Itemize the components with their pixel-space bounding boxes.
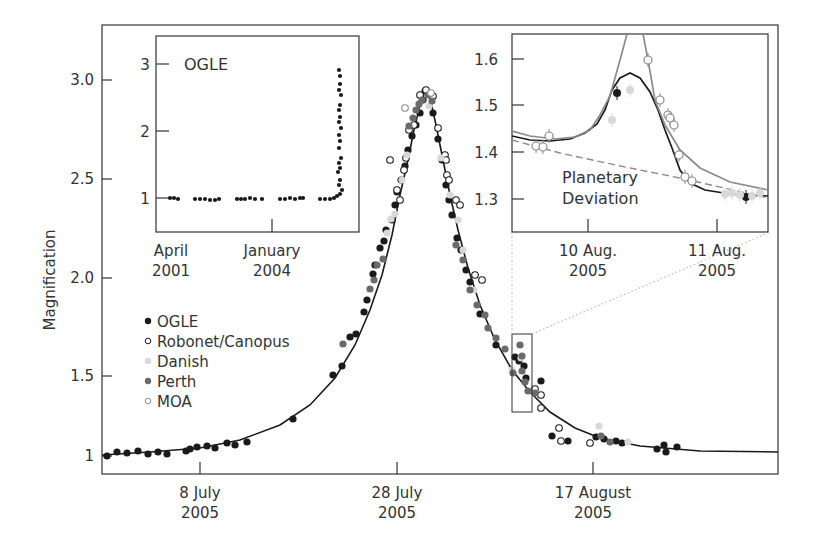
data-point-danish bbox=[403, 151, 410, 158]
ogle-point bbox=[283, 197, 287, 201]
ogle-point bbox=[301, 196, 305, 200]
data-point-ogle bbox=[466, 278, 473, 285]
x-tick-label: 28 July bbox=[372, 484, 423, 502]
ogle-point bbox=[176, 197, 180, 201]
inset-x-tick-label: 11 Aug. bbox=[688, 242, 746, 260]
data-point-ogle bbox=[338, 362, 345, 369]
inset-ogle-title: OGLE bbox=[184, 55, 228, 74]
data-point-perth bbox=[518, 367, 525, 374]
data-point-robonet-canopus bbox=[394, 187, 401, 194]
data-point-ogle bbox=[211, 444, 218, 451]
inset-point bbox=[756, 189, 764, 197]
ogle-point bbox=[243, 197, 247, 201]
data-point-ogle bbox=[618, 439, 625, 446]
data-point-danish bbox=[437, 154, 444, 161]
legend-marker bbox=[145, 318, 151, 324]
data-point-robonet-canopus bbox=[387, 157, 394, 164]
inset-x-tick-label: April bbox=[154, 242, 188, 260]
data-point-ogle bbox=[113, 448, 120, 455]
ogle-point bbox=[235, 197, 239, 201]
data-point-danish bbox=[595, 422, 602, 429]
x-tick-label: 17 August bbox=[555, 484, 631, 502]
data-point-moa bbox=[402, 105, 409, 112]
ogle-point bbox=[213, 198, 217, 202]
data-point-ogle bbox=[662, 448, 669, 455]
data-point-perth bbox=[484, 324, 491, 331]
data-point-ogle bbox=[163, 450, 170, 457]
legend-label: Danish bbox=[157, 353, 209, 371]
y-tick-label: 1 bbox=[84, 447, 94, 465]
inset-x-tick-label-year: 2001 bbox=[152, 262, 190, 280]
ogle-point bbox=[253, 197, 257, 201]
data-point-danish bbox=[391, 210, 398, 217]
data-point-perth bbox=[459, 256, 466, 263]
inset-point bbox=[736, 191, 744, 199]
legend-label: Robonet/Canopus bbox=[157, 333, 290, 351]
y-tick-label: 3.0 bbox=[70, 71, 94, 89]
data-point-perth bbox=[521, 378, 528, 385]
data-point-perth bbox=[409, 114, 416, 121]
data-point-ogle bbox=[103, 452, 110, 459]
data-point-perth bbox=[373, 261, 380, 268]
data-point-perth bbox=[597, 432, 604, 439]
data-point-perth bbox=[606, 438, 613, 445]
ogle-point bbox=[203, 197, 207, 201]
ogle-point bbox=[217, 197, 221, 201]
inset-point bbox=[670, 121, 678, 129]
data-point-danish bbox=[446, 191, 453, 198]
y-tick-label: 2.5 bbox=[70, 170, 94, 188]
data-point-ogle bbox=[289, 415, 296, 422]
inset-y-tick-label: 1.6 bbox=[474, 51, 498, 69]
inset-x-tick-label-year: 2004 bbox=[253, 262, 291, 280]
ogle-point bbox=[338, 139, 342, 143]
legend-marker bbox=[145, 378, 151, 384]
data-point-perth bbox=[418, 96, 425, 103]
data-point-ogle bbox=[144, 450, 151, 457]
data-point-perth bbox=[501, 345, 508, 352]
data-point-ogle bbox=[462, 266, 469, 273]
data-point-danish bbox=[624, 438, 631, 445]
y-tick-label: 1.5 bbox=[70, 367, 94, 385]
ogle-point bbox=[338, 192, 342, 196]
ogle-point bbox=[248, 196, 252, 200]
inset-point bbox=[608, 116, 616, 124]
ogle-point bbox=[339, 126, 343, 130]
data-point-robonet-canopus bbox=[397, 197, 404, 204]
data-point-ogle bbox=[537, 377, 544, 384]
ogle-point bbox=[337, 108, 341, 112]
inset-point bbox=[675, 151, 683, 159]
data-point-perth bbox=[509, 369, 516, 376]
data-point-robonet-canopus bbox=[457, 202, 464, 209]
inset-point bbox=[728, 189, 736, 197]
data-point-robonet-canopus bbox=[558, 438, 565, 445]
ogle-point bbox=[337, 161, 341, 165]
inset-point bbox=[748, 192, 756, 200]
ogle-point bbox=[338, 166, 342, 170]
inset-point bbox=[545, 132, 553, 140]
inset-y-tick-label: 1.4 bbox=[474, 144, 498, 162]
x-tick-label: 8 July bbox=[179, 484, 220, 502]
data-point-perth bbox=[339, 340, 346, 347]
data-point-ogle bbox=[243, 438, 250, 445]
ogle-point bbox=[338, 178, 342, 182]
inset-deviation-label-2: Deviation bbox=[562, 189, 639, 208]
ogle-point bbox=[193, 197, 197, 201]
data-point-robonet-canopus bbox=[556, 425, 563, 432]
data-point-ogle bbox=[363, 296, 370, 303]
data-point-moa bbox=[428, 90, 435, 97]
data-point-ogle bbox=[380, 237, 387, 244]
data-point-ogle bbox=[231, 441, 238, 448]
data-point-ogle bbox=[376, 244, 383, 251]
data-point-perth bbox=[379, 255, 386, 262]
inset-point bbox=[626, 86, 634, 94]
data-point-perth bbox=[452, 241, 459, 248]
ogle-point bbox=[337, 120, 341, 124]
data-point-perth bbox=[481, 311, 488, 318]
inset-y-tick-label: 1 bbox=[140, 190, 150, 208]
data-point-ogle bbox=[548, 432, 555, 439]
data-point-ogle bbox=[352, 330, 359, 337]
data-point-ogle bbox=[434, 135, 441, 142]
microlensing-light-curve-chart: 3.02.52.01.51 8 July200528 July200517 Au… bbox=[0, 0, 814, 546]
ogle-point bbox=[337, 183, 341, 187]
ogle-point bbox=[278, 197, 282, 201]
